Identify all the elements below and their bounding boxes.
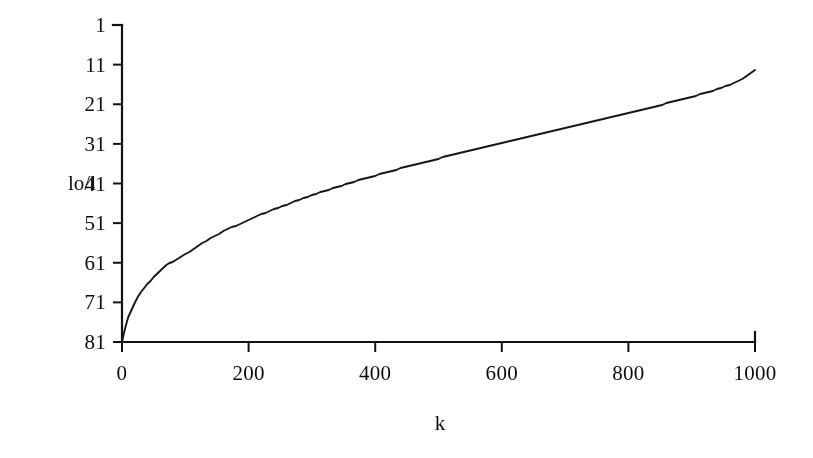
x-tick-label: 800 bbox=[612, 361, 644, 385]
y-axis-title: lo/l bbox=[68, 171, 96, 195]
chart-figure: 81716151413121111 02004006008001000 lo/l… bbox=[0, 0, 813, 458]
y-tick-label: 71 bbox=[84, 290, 106, 314]
chart-tick-marks bbox=[113, 25, 755, 352]
y-tick-label: 11 bbox=[85, 53, 106, 77]
x-tick-label: 1000 bbox=[733, 361, 776, 385]
chart-axes bbox=[113, 25, 755, 342]
x-axis-title: k bbox=[435, 411, 446, 435]
y-tick-label: 51 bbox=[84, 211, 106, 235]
x-tick-label: 400 bbox=[359, 361, 391, 385]
x-tick-label: 200 bbox=[232, 361, 264, 385]
line-chart: 81716151413121111 02004006008001000 lo/l… bbox=[0, 0, 813, 458]
chart-data-curve bbox=[122, 70, 755, 342]
y-tick-label: 1 bbox=[95, 13, 106, 37]
y-tick-label: 61 bbox=[84, 251, 106, 275]
x-tick-label: 600 bbox=[486, 361, 518, 385]
data-series-line bbox=[122, 70, 755, 342]
x-axis-tick-labels: 02004006008001000 bbox=[117, 361, 777, 385]
y-tick-label: 81 bbox=[84, 330, 106, 354]
y-tick-label: 21 bbox=[84, 92, 106, 116]
x-tick-label: 0 bbox=[117, 361, 128, 385]
y-tick-label: 31 bbox=[84, 132, 106, 156]
